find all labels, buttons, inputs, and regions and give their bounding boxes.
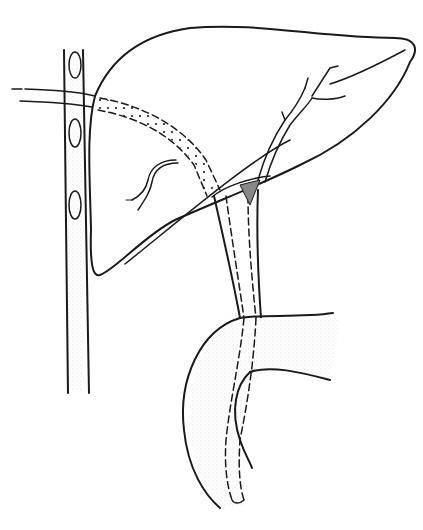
common-bile-duct bbox=[212, 176, 270, 318]
liver-biliary-illustration bbox=[0, 0, 423, 530]
liver bbox=[89, 27, 415, 276]
left-duct-branch bbox=[126, 160, 178, 210]
catheter bbox=[12, 89, 220, 196]
duodenum bbox=[183, 313, 340, 508]
rib-column bbox=[64, 50, 89, 393]
